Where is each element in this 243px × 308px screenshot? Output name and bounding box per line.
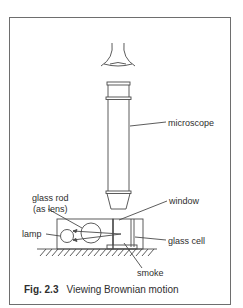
smoke-pointer bbox=[124, 243, 142, 268]
ground-hatching bbox=[37, 249, 157, 256]
window-pointer bbox=[119, 201, 167, 220]
figure-caption: Fig. 2.3Viewing Brownian motion bbox=[24, 284, 179, 295]
label-glass-cell: glass cell bbox=[168, 236, 205, 246]
microscope bbox=[106, 82, 131, 209]
label-glass-rod-line1: glass rod bbox=[32, 193, 69, 203]
label-microscope: microscope bbox=[168, 118, 214, 128]
glass-cell-pointer bbox=[135, 237, 166, 240]
figure-title: Viewing Brownian motion bbox=[66, 284, 178, 295]
label-window: window bbox=[169, 196, 199, 206]
label-lamp: lamp bbox=[22, 229, 42, 239]
figure-number: Fig. 2.3 bbox=[24, 284, 58, 295]
lamp-housing bbox=[57, 219, 113, 249]
microscope-pointer bbox=[130, 122, 166, 126]
label-smoke: smoke bbox=[137, 268, 164, 278]
label-glass-rod-line2: (as lens) bbox=[33, 204, 68, 214]
eye-icon bbox=[101, 43, 135, 66]
brownian-motion-diagram bbox=[0, 0, 243, 308]
light-rays bbox=[73, 230, 121, 242]
lamp-bulb bbox=[61, 230, 74, 243]
lamp-pointer bbox=[46, 234, 60, 236]
